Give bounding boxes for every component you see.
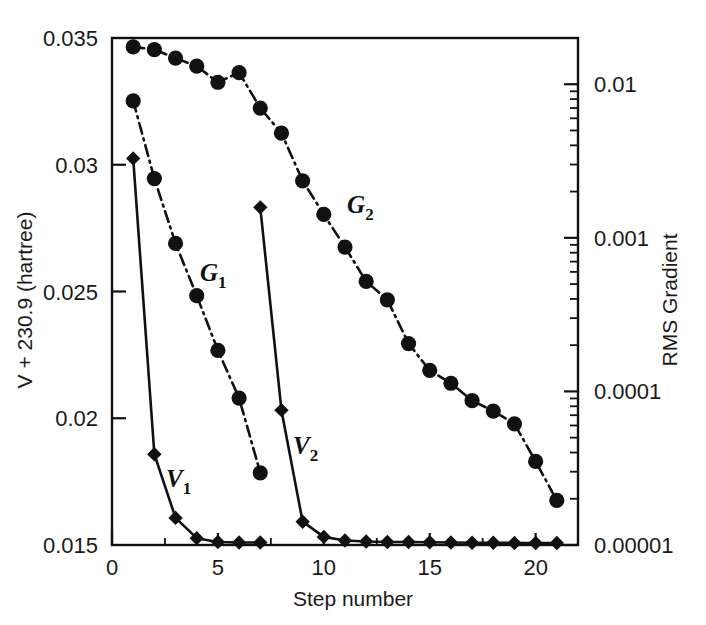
data-point-G2-11 [337, 240, 352, 255]
x-tick-label: 15 [417, 555, 441, 580]
data-point-G2-8 [274, 126, 289, 141]
data-point-G2-14 [401, 336, 416, 351]
data-point-G2-9 [295, 173, 310, 188]
x-axis-title: Step number [293, 587, 413, 610]
y-right-tick-label: 0.00001 [594, 533, 674, 558]
data-point-G2-10 [316, 207, 331, 222]
data-point-G1-5 [210, 343, 225, 358]
y-right-tick-label: 0.0001 [594, 379, 661, 404]
y-left-tick-label: 0.035 [43, 26, 98, 51]
y-left-tick-label: 0.015 [43, 533, 98, 558]
data-point-G2-21 [549, 493, 564, 508]
y-left-tick-label: 0.025 [43, 280, 98, 305]
label-V1-subscript: 1 [183, 479, 192, 498]
data-point-G1-6 [231, 390, 246, 405]
x-tick-label: 20 [523, 555, 547, 580]
label-G1-subscript: 1 [218, 273, 227, 292]
data-point-G2-15 [422, 363, 437, 378]
label-G2-subscript: 2 [365, 205, 374, 224]
y-left-tick-label: 0.03 [55, 153, 98, 178]
label-G2-base: G [347, 191, 365, 218]
y-left-axis-title: V + 230.9 (hartree) [13, 212, 36, 389]
y-right-tick-label: 0.01 [594, 72, 637, 97]
data-point-G1-7 [253, 465, 268, 480]
data-point-G2-12 [359, 274, 374, 289]
data-point-G1-4 [189, 288, 204, 303]
x-tick-label: 0 [106, 555, 118, 580]
data-point-G2-3 [168, 50, 183, 65]
data-point-G2-18 [486, 403, 501, 418]
data-point-G2-16 [443, 376, 458, 391]
label-G1-base: G [200, 259, 218, 286]
data-point-G2-6 [231, 65, 246, 80]
x-tick-label: 5 [212, 555, 224, 580]
data-point-G1-1 [126, 93, 141, 108]
data-point-G2-17 [464, 393, 479, 408]
y-right-axis-title: RMS Gradient [658, 233, 681, 366]
data-point-G2-13 [380, 292, 395, 307]
y-right-tick-label: 0.001 [594, 226, 649, 251]
y-left-tick-label: 0.02 [55, 406, 98, 431]
x-tick-label: 10 [312, 555, 336, 580]
data-point-G2-4 [189, 59, 204, 74]
optimization-convergence-chart: 05101520 0.0150.020.0250.030.035 0.010.0… [0, 0, 706, 625]
label-V2-subscript: 2 [310, 446, 319, 465]
data-point-G1-3 [168, 236, 183, 251]
data-point-G2-2 [147, 42, 162, 57]
data-point-G2-19 [507, 416, 522, 431]
data-point-G2-7 [253, 100, 268, 115]
data-point-G2-20 [528, 454, 543, 469]
data-point-G1-2 [147, 171, 162, 186]
data-point-G2-5 [210, 75, 225, 90]
figure-root: 05101520 0.0150.020.0250.030.035 0.010.0… [0, 0, 706, 625]
data-point-G2-1 [126, 39, 141, 54]
